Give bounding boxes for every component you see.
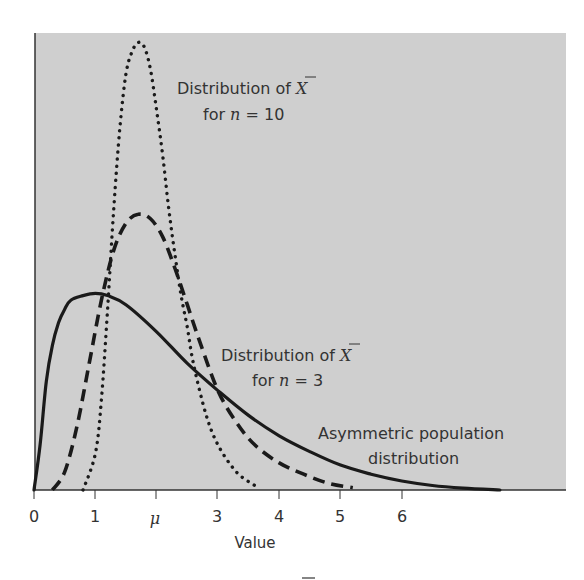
xbar-symbol: X (338, 346, 352, 365)
svg-text:4: 4 (274, 507, 284, 526)
plot-area (35, 33, 566, 490)
x-tick-labels: 0 1 μ 3 4 5 6 (29, 507, 407, 528)
svg-text:μ: μ (150, 509, 160, 528)
annotation-n10-line1: Distribution of (177, 79, 296, 98)
svg-text:5: 5 (335, 507, 345, 526)
x-axis-label: Value (234, 534, 275, 552)
svg-text:for n = 3: for n = 3 (252, 371, 323, 390)
annotation-n3-line1: Distribution of (221, 346, 340, 365)
svg-text:for n = 10: for n = 10 (203, 105, 284, 124)
annotation-n10-for: for (203, 105, 230, 124)
svg-text:Distribution of X: Distribution of X (221, 346, 352, 365)
xbar-symbol: X (294, 79, 308, 98)
annotation-n3-for: for (252, 371, 279, 390)
svg-text:Distribution of X: Distribution of X (177, 79, 308, 98)
svg-text:3: 3 (212, 507, 222, 526)
x-ticks (34, 490, 402, 499)
chart: Distribution of X for n = 10 Distributio… (0, 0, 584, 580)
svg-text:0: 0 (29, 507, 39, 526)
svg-text:6: 6 (397, 507, 407, 526)
svg-text:Asymmetric population: Asymmetric population (318, 424, 504, 443)
svg-text:distribution: distribution (368, 449, 459, 468)
svg-text:1: 1 (90, 507, 100, 526)
